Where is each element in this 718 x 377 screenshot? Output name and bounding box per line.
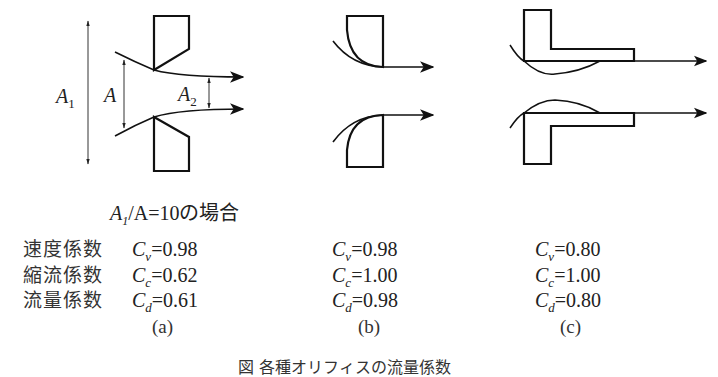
orifice-plate-top [154,16,189,70]
label-b: (b) [358,317,380,336]
a1-label: A1 [56,86,75,106]
coef-b-velocity: Cv=0.98 [332,239,397,259]
a2-label: A2 [178,84,197,104]
row-label-velocity-coefficient: 速度係数 [23,240,103,259]
row-label-contraction-coefficient: 縮流係数 [23,266,103,285]
tube-wall-bottom [524,113,634,164]
label-c: (c) [560,317,581,336]
coef-b-contraction: Cc=1.00 [332,265,397,285]
orifice-plate-bottom [154,117,189,171]
coef-a-velocity: Cv=0.98 [132,239,197,259]
coef-c-contraction: Cc=1.00 [535,265,600,285]
coef-b-discharge: Cd=0.98 [332,290,398,310]
label-a: (a) [152,317,173,336]
a-label: A [104,85,116,105]
condition-note: A1/A=10の場合 [110,203,240,223]
coef-c-discharge: Cd=0.80 [535,290,601,310]
figure-caption: 図 各種オリフィスの流量係数 [238,360,451,376]
coef-a-contraction: Cc=0.62 [132,265,197,285]
diagram-b [333,16,433,167]
coef-a-discharge: Cd=0.61 [132,290,198,310]
tube-wall-top [524,10,634,61]
row-label-discharge-coefficient: 流量係数 [23,291,103,310]
coef-c-velocity: Cv=0.80 [535,239,600,259]
bellmouth-block-bottom [347,115,383,167]
diagram-c [510,10,706,164]
